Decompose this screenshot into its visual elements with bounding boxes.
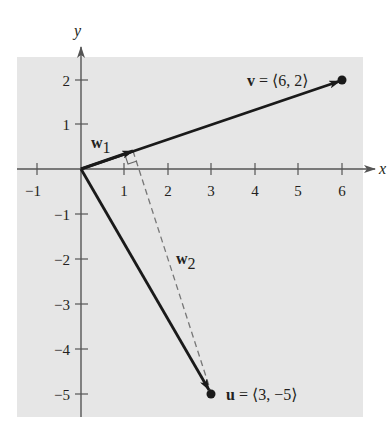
vector-u-endpoint	[207, 390, 216, 399]
label-v: v = ⟨6, 2⟩	[247, 72, 309, 89]
label-u: u = ⟨3, −5⟩	[226, 386, 297, 403]
svg-text:−2: −2	[54, 252, 70, 268]
svg-text:2: 2	[63, 73, 71, 89]
svg-text:−4: −4	[54, 342, 70, 358]
svg-text:5: 5	[294, 183, 302, 199]
svg-text:3: 3	[207, 183, 215, 199]
svg-text:4: 4	[251, 183, 259, 199]
vector-v-endpoint	[338, 76, 347, 85]
svg-text:2: 2	[164, 183, 172, 199]
svg-text:−3: −3	[54, 297, 70, 313]
svg-text:−1: −1	[54, 207, 70, 223]
svg-text:1: 1	[120, 183, 128, 199]
svg-text:−5: −5	[54, 387, 70, 403]
y-axis-label: y	[72, 22, 82, 40]
vector-projection-figure: x y −1 1 2 3 4 5 6 2 1 −1 −2 −3 −4 −5	[0, 0, 389, 435]
svg-text:1: 1	[63, 117, 71, 133]
x-axis-label: x	[378, 160, 386, 177]
svg-text:−1: −1	[25, 183, 41, 199]
svg-text:6: 6	[338, 183, 346, 199]
plot-background	[17, 57, 363, 417]
